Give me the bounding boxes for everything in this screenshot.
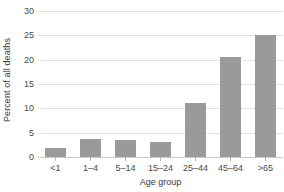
x-tick-slot bbox=[248, 157, 283, 161]
bar[interactable] bbox=[45, 148, 66, 157]
y-axis-title: Percent of all deaths bbox=[0, 0, 14, 160]
x-tick-label: 5–14 bbox=[108, 163, 143, 175]
bar-slot bbox=[38, 11, 73, 157]
y-tick-label: 25 bbox=[24, 30, 34, 40]
x-tick-slot bbox=[73, 157, 108, 161]
bar[interactable] bbox=[185, 103, 206, 158]
bar[interactable] bbox=[255, 35, 276, 157]
bar-slot bbox=[178, 11, 213, 157]
x-tick-mark bbox=[90, 157, 91, 161]
bars-layer bbox=[38, 11, 283, 157]
x-tick-slot bbox=[38, 157, 73, 161]
x-tick-label: 15–24 bbox=[143, 163, 178, 175]
bar[interactable] bbox=[80, 139, 101, 157]
x-tick-mark bbox=[160, 157, 161, 161]
bar-chart: Percent of all deaths 051015202530 <11–4… bbox=[0, 0, 284, 192]
bar[interactable] bbox=[150, 142, 171, 157]
x-tick-slot bbox=[143, 157, 178, 161]
bar[interactable] bbox=[115, 140, 136, 157]
bar-slot bbox=[73, 11, 108, 157]
y-tick-label: 15 bbox=[24, 79, 34, 89]
y-tick-label: 5 bbox=[29, 128, 34, 138]
y-tick-label: 20 bbox=[24, 55, 34, 65]
x-tick-slot bbox=[108, 157, 143, 161]
x-tick-label: <1 bbox=[38, 163, 73, 175]
bar-slot bbox=[213, 11, 248, 157]
y-axis-title-label: Percent of all deaths bbox=[2, 38, 12, 122]
y-tick-label: 10 bbox=[24, 103, 34, 113]
y-axis-tick-labels: 051015202530 bbox=[14, 0, 36, 160]
x-tick-slot bbox=[213, 157, 248, 161]
x-axis-tick-labels: <11–45–1415–2425–4445–64>65 bbox=[38, 163, 283, 175]
y-tick-label: 0 bbox=[29, 152, 34, 162]
x-tick-label: 45–64 bbox=[213, 163, 248, 175]
bar-slot bbox=[108, 11, 143, 157]
x-tick-mark bbox=[195, 157, 196, 161]
x-axis-ticks bbox=[38, 157, 283, 161]
x-tick-slot bbox=[178, 157, 213, 161]
x-tick-mark bbox=[265, 157, 266, 161]
bar-slot bbox=[248, 11, 283, 157]
bar-slot bbox=[143, 11, 178, 157]
x-tick-mark bbox=[230, 157, 231, 161]
x-tick-label: 25–44 bbox=[178, 163, 213, 175]
x-tick-mark bbox=[55, 157, 56, 161]
x-tick-label: 1–4 bbox=[73, 163, 108, 175]
x-axis-title: Age group bbox=[38, 177, 283, 187]
plot-area bbox=[38, 11, 283, 157]
y-tick-label: 30 bbox=[24, 6, 34, 16]
x-tick-label: >65 bbox=[248, 163, 283, 175]
bar[interactable] bbox=[220, 57, 241, 157]
x-tick-mark bbox=[125, 157, 126, 161]
x-axis-title-label: Age group bbox=[140, 177, 182, 187]
